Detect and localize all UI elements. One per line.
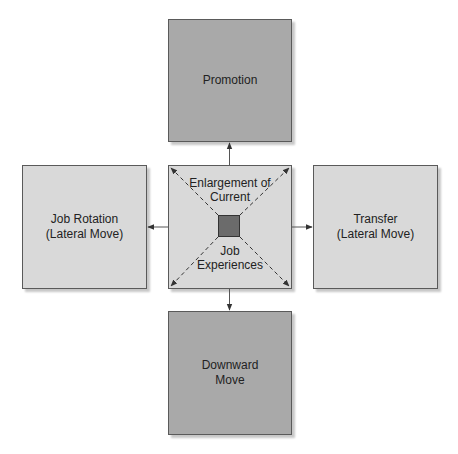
job-rotation-box: Job Rotation (Lateral Move): [22, 165, 147, 289]
core-square: [218, 215, 240, 237]
transfer-label: Transfer (Lateral Move): [337, 212, 414, 242]
downward-move-box: Downward Move: [168, 311, 292, 435]
downward-move-label: Downward Move: [202, 358, 259, 388]
promotion-label: Promotion: [203, 73, 258, 88]
job-experiences-label: Job Experiences: [168, 244, 292, 272]
enlargement-label: Enlargement of Current: [168, 176, 292, 204]
job-rotation-label: Job Rotation (Lateral Move): [46, 212, 123, 242]
promotion-box: Promotion: [168, 19, 292, 142]
transfer-box: Transfer (Lateral Move): [313, 165, 438, 289]
